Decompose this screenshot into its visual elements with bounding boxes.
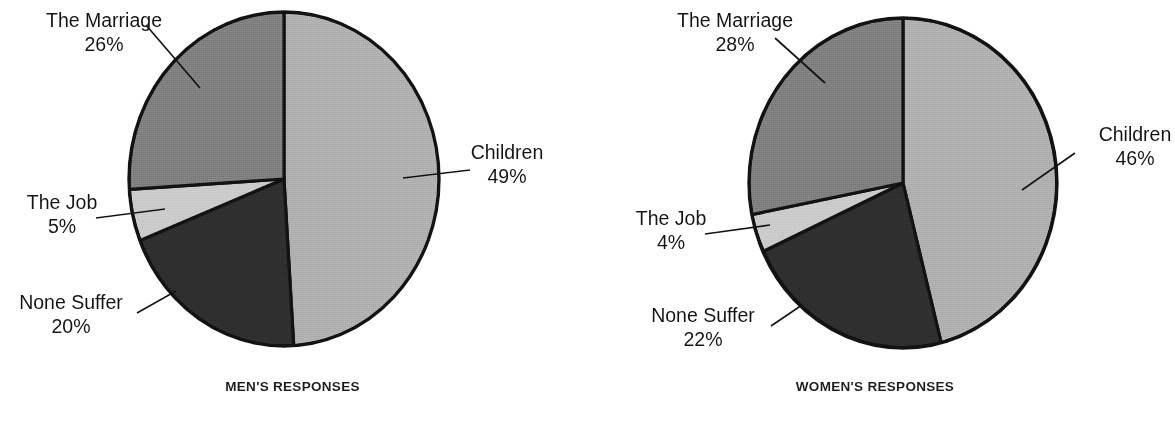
chart-title-men: MEN'S RESPONSES <box>0 379 585 394</box>
callout-value-none-suffer: 20% <box>8 314 134 338</box>
callout-value-children: 49% <box>452 164 562 188</box>
chart-panel-women: The Marriage 28% The Job 4% None Suffer … <box>585 0 1165 428</box>
callout-the-job: The Job 5% <box>12 190 112 238</box>
callout-value-none-suffer: 22% <box>640 327 766 351</box>
callout-the-job: The Job 4% <box>621 206 721 254</box>
callout-the-marriage: The Marriage 28% <box>645 8 825 56</box>
callout-label-children: Children <box>1080 122 1175 146</box>
callout-label-the-marriage: The Marriage <box>14 8 194 32</box>
callout-none-suffer: None Suffer 20% <box>8 290 134 338</box>
callout-label-the-job: The Job <box>621 206 721 230</box>
callout-the-marriage: The Marriage 26% <box>14 8 194 56</box>
callout-label-none-suffer: None Suffer <box>640 303 766 327</box>
leader-line-none-suffer <box>137 291 176 313</box>
callout-children: Children 46% <box>1080 122 1175 170</box>
callout-label-the-job: The Job <box>12 190 112 214</box>
callout-label-none-suffer: None Suffer <box>8 290 134 314</box>
callout-value-the-job: 5% <box>12 214 112 238</box>
callout-none-suffer: None Suffer 22% <box>640 303 766 351</box>
callout-label-the-marriage: The Marriage <box>645 8 825 32</box>
chart-panel-men: The Marriage 26% The Job 5% None Suffer … <box>0 0 585 428</box>
callout-value-children: 46% <box>1080 146 1175 170</box>
callout-children: Children 49% <box>452 140 562 188</box>
chart-title-women: WOMEN'S RESPONSES <box>585 379 1165 394</box>
callout-label-children: Children <box>452 140 562 164</box>
pie-slice-children[interactable] <box>284 12 440 346</box>
callout-value-the-job: 4% <box>621 230 721 254</box>
leader-line-none-suffer <box>771 305 802 326</box>
callout-value-the-marriage: 28% <box>645 32 825 56</box>
callout-value-the-marriage: 26% <box>14 32 194 56</box>
